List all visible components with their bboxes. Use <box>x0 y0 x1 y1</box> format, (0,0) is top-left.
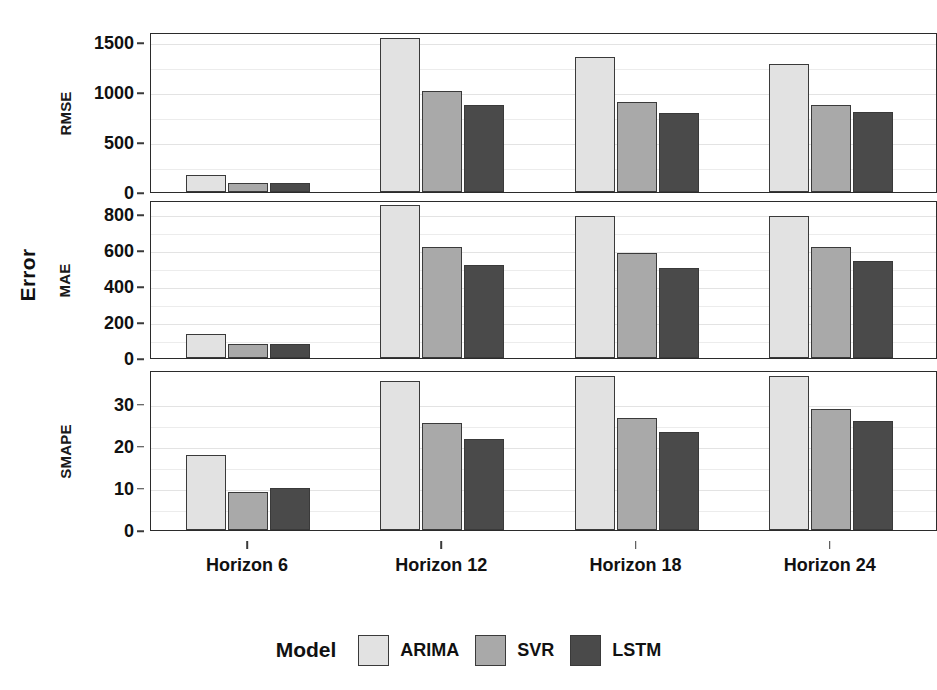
y-tick-mark <box>137 192 144 194</box>
bar-rmse-horizon-18-arima <box>575 57 615 193</box>
legend-item-svr[interactable]: SVR <box>475 635 554 666</box>
bar-smape-horizon-24-svr <box>811 409 851 530</box>
y-tick-mark <box>137 215 144 217</box>
bar-mae-horizon-18-arima <box>575 216 615 358</box>
x-tick-label-horizon-12: Horizon 12 <box>395 555 487 576</box>
y-tick-label: 400 <box>104 277 134 298</box>
y-tick-label: 20 <box>114 436 134 457</box>
y-tick-mark <box>137 286 144 288</box>
legend-label-svr: SVR <box>517 640 554 661</box>
panel-strip-label: SMAPE <box>57 424 74 478</box>
bar-rmse-horizon-24-svr <box>811 105 851 193</box>
gridline-major <box>151 94 936 95</box>
panel-strip-smape: SMAPE <box>48 371 82 531</box>
legend-label-arima: ARIMA <box>400 640 459 661</box>
y-tick-mark <box>137 251 144 253</box>
bar-mae-horizon-6-svr <box>228 344 268 358</box>
y-tick-label: 1000 <box>94 83 134 104</box>
legend-swatch-svr <box>475 635 506 666</box>
legend-swatch-lstm <box>570 635 601 666</box>
bar-smape-horizon-18-svr <box>617 418 657 530</box>
y-tick-mark <box>137 92 144 94</box>
bar-rmse-horizon-6-lstm <box>270 183 310 192</box>
plot-area-rmse <box>150 33 937 193</box>
y-tick-label: 1500 <box>94 33 134 54</box>
y-tick-mark <box>137 142 144 144</box>
y-tick-mark <box>137 446 144 448</box>
y-tick-labels-smape: 0102030 <box>84 371 144 531</box>
bar-rmse-horizon-12-lstm <box>464 105 504 192</box>
x-axis: Horizon 6Horizon 12Horizon 18Horizon 24 <box>150 541 937 587</box>
bar-smape-horizon-6-lstm <box>270 488 310 530</box>
y-tick-label: 10 <box>114 478 134 499</box>
plot-area-smape <box>150 371 937 531</box>
legend-swatch-arima <box>358 635 389 666</box>
y-tick-mark <box>137 404 144 406</box>
bar-mae-horizon-24-arima <box>769 216 809 358</box>
x-tick-label-horizon-24: Horizon 24 <box>784 555 876 576</box>
panel-strip-label: MAE <box>57 263 74 297</box>
panel-strip-label: RMSE <box>57 91 74 135</box>
bar-smape-horizon-6-svr <box>228 492 268 530</box>
bar-mae-horizon-18-lstm <box>659 268 699 358</box>
gridline-minor <box>151 69 936 70</box>
bar-rmse-horizon-24-lstm <box>853 112 893 192</box>
bar-smape-horizon-12-lstm <box>464 439 504 530</box>
bar-rmse-horizon-24-arima <box>769 64 809 192</box>
y-tick-label: 200 <box>104 313 134 334</box>
bar-mae-horizon-12-lstm <box>464 265 504 358</box>
bar-rmse-horizon-6-svr <box>228 183 268 193</box>
bar-rmse-horizon-18-lstm <box>659 113 699 192</box>
bar-rmse-horizon-18-svr <box>617 102 657 192</box>
bar-smape-horizon-18-arima <box>575 376 615 530</box>
y-tick-mark <box>137 530 144 532</box>
bar-smape-horizon-6-arima <box>186 455 226 530</box>
plot-area-mae <box>150 201 937 359</box>
legend-title: Model <box>276 638 337 662</box>
legend-item-arima[interactable]: ARIMA <box>358 635 459 666</box>
x-tick-mark <box>246 541 248 549</box>
x-tick-mark <box>829 541 831 549</box>
bar-mae-horizon-12-svr <box>422 247 462 358</box>
bar-mae-horizon-6-arima <box>186 334 226 358</box>
legend-label-lstm: LSTM <box>612 640 661 661</box>
bar-mae-horizon-24-svr <box>811 247 851 358</box>
legend: Model ARIMASVRLSTM <box>0 628 937 672</box>
y-tick-label: 500 <box>104 133 134 154</box>
legend-items: ARIMASVRLSTM <box>358 635 661 666</box>
y-tick-mark <box>137 42 144 44</box>
bar-smape-horizon-24-lstm <box>853 421 893 530</box>
bar-mae-horizon-6-lstm <box>270 344 310 358</box>
bar-smape-horizon-12-arima <box>380 381 420 530</box>
bar-rmse-horizon-6-arima <box>186 175 226 193</box>
y-tick-label: 600 <box>104 241 134 262</box>
y-tick-mark <box>137 488 144 490</box>
x-tick-mark <box>635 541 637 549</box>
panel-rmse: RMSE050010001500 <box>0 28 937 198</box>
panel-strip-mae: MAE <box>48 201 82 359</box>
legend-item-lstm[interactable]: LSTM <box>570 635 661 666</box>
y-tick-mark <box>137 322 144 324</box>
x-tick-label-horizon-6: Horizon 6 <box>206 555 288 576</box>
bar-rmse-horizon-12-svr <box>422 91 462 192</box>
bar-mae-horizon-12-arima <box>380 205 420 359</box>
bar-smape-horizon-24-arima <box>769 376 809 530</box>
y-tick-label: 30 <box>114 394 134 415</box>
panel-mae: MAE0200400600800 <box>0 196 937 364</box>
x-tick-mark <box>441 541 443 549</box>
y-tick-mark <box>137 358 144 360</box>
bar-mae-horizon-18-svr <box>617 253 657 358</box>
y-tick-labels-mae: 0200400600800 <box>84 201 144 359</box>
gridline-major <box>151 406 936 407</box>
panel-smape: SMAPE0102030 <box>0 366 937 536</box>
y-tick-label: 0 <box>124 521 134 542</box>
y-tick-label: 800 <box>104 205 134 226</box>
y-tick-labels-rmse: 050010001500 <box>84 33 144 193</box>
gridline-major <box>151 216 936 217</box>
bar-rmse-horizon-12-arima <box>380 38 420 192</box>
x-tick-label-horizon-18: Horizon 18 <box>590 555 682 576</box>
bar-smape-horizon-12-svr <box>422 423 462 530</box>
gridline-major <box>151 44 936 45</box>
gridline-minor <box>151 234 936 235</box>
chart-figure: Error RMSE050010001500MAE0200400600800SM… <box>0 0 937 690</box>
